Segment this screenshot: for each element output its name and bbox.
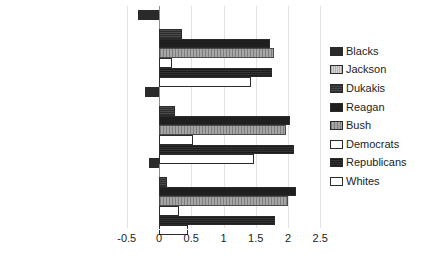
legend-item-dukakis[interactable]: Dukakis <box>330 79 422 98</box>
swatch-jackson-icon <box>330 65 343 74</box>
swatch-whites-icon <box>330 177 343 186</box>
bar-whites <box>159 77 251 87</box>
legend-label: Bush <box>346 120 371 131</box>
swatch-democrats-icon <box>330 140 343 149</box>
legend-label: Whites <box>346 176 380 187</box>
swatch-dukakis-icon <box>330 84 343 93</box>
bar-blacks <box>138 10 159 20</box>
bar-chart: Gov. Aid to BlacksGov. Guarantee JobsDef… <box>0 0 422 259</box>
bar-whites <box>159 154 254 164</box>
bar-dukakis <box>159 106 175 116</box>
bar-bush <box>159 196 288 206</box>
bar-bush <box>159 48 274 58</box>
legend-label: Jackson <box>346 64 386 75</box>
bar-reagan <box>159 187 296 197</box>
chart-legend: BlacksJacksonDukakisReaganBushDemocratsR… <box>330 42 422 191</box>
bar-republicans <box>159 145 294 155</box>
bar-democrats <box>159 135 193 145</box>
swatch-bush-icon <box>330 121 343 130</box>
bar-republicans <box>159 216 275 226</box>
legend-label: Republicans <box>346 157 407 168</box>
swatch-republicans-icon <box>330 158 343 167</box>
legend-label: Democrats <box>346 139 399 150</box>
swatch-reagan-icon <box>330 103 343 112</box>
legend-label: Blacks <box>346 46 378 57</box>
bar-blacks <box>149 158 159 168</box>
bar-republicans <box>159 68 272 78</box>
x-tick-label: 2.5 <box>313 232 328 244</box>
gridline <box>127 6 128 228</box>
legend-item-democrats[interactable]: Democrats <box>330 135 422 154</box>
swatch-blacks-icon <box>330 47 343 56</box>
plot-area: Gov. Aid to BlacksGov. Guarantee JobsDef… <box>0 0 330 230</box>
bar-democrats <box>159 206 179 216</box>
bar-bush <box>159 125 286 135</box>
legend-item-republicans[interactable]: Republicans <box>330 154 422 173</box>
legend-item-jackson[interactable]: Jackson <box>330 61 422 80</box>
bar-dukakis <box>159 29 182 39</box>
x-tick-label: 1 <box>220 232 226 244</box>
legend-item-whites[interactable]: Whites <box>330 172 422 191</box>
bar-reagan <box>159 116 290 126</box>
x-tick-label: 1.5 <box>248 232 263 244</box>
bar-blacks <box>145 87 159 97</box>
legend-item-bush[interactable]: Bush <box>330 116 422 135</box>
gridline <box>320 6 321 228</box>
x-tick-label: -0.5 <box>117 232 136 244</box>
legend-label: Reagan <box>346 102 385 113</box>
bar-reagan <box>159 39 270 49</box>
x-tick-label: 0.5 <box>184 232 199 244</box>
legend-item-reagan[interactable]: Reagan <box>330 98 422 117</box>
x-tick-label: 0 <box>156 232 162 244</box>
x-tick-label: 2 <box>285 232 291 244</box>
bar-dukakis <box>159 177 167 187</box>
legend-item-blacks[interactable]: Blacks <box>330 42 422 61</box>
bar-democrats <box>159 58 172 68</box>
x-axis-line <box>112 229 330 230</box>
legend-label: Dukakis <box>346 83 385 94</box>
